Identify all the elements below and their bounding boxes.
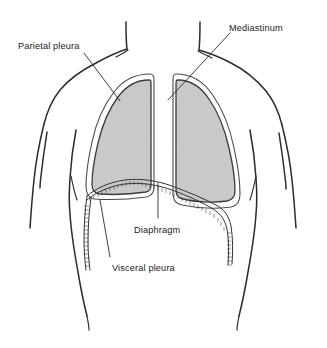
torso-right-flank xyxy=(239,130,257,316)
label-mediastinum: Mediastinum xyxy=(229,23,283,33)
mediastinum-space xyxy=(157,76,171,198)
diaphragm-limb-left-outer xyxy=(84,196,87,270)
right-lung xyxy=(176,80,235,202)
neck-right-line xyxy=(199,22,200,50)
pectoral-right-crease xyxy=(250,176,256,200)
neck-left-line xyxy=(126,22,127,49)
pectoral-left-crease xyxy=(71,176,77,200)
arm-right-inner xyxy=(279,133,286,189)
arm-right-outer xyxy=(282,125,296,228)
label-visceral-pleura: Visceral pleura xyxy=(112,263,176,273)
leader-visceral-pleura xyxy=(100,200,110,257)
label-parietal-pleura: Parietal pleura xyxy=(18,41,80,51)
label-diaphragm: Diaphragm xyxy=(134,225,180,235)
arm-left-outer xyxy=(30,124,44,228)
anatomy-figure: Parietal pleura Mediastinum Diaphragm Vi… xyxy=(0,0,327,348)
hip-left-line xyxy=(87,316,89,330)
hip-right-line xyxy=(237,316,239,330)
thorax-diagram: Parietal pleura Mediastinum Diaphragm Vi… xyxy=(0,0,327,348)
arm-left-inner xyxy=(40,132,47,188)
left-lung xyxy=(92,80,151,194)
